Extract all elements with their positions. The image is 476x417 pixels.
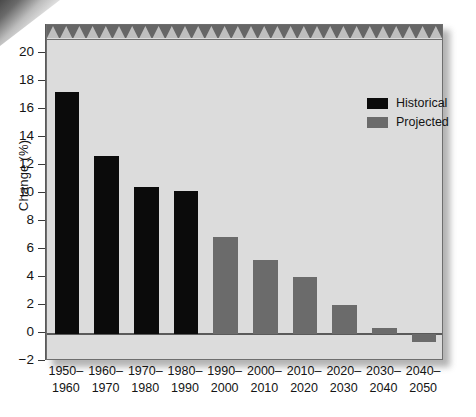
y-tick-mark [38, 360, 45, 361]
bar-1980-1990 [174, 191, 199, 334]
legend-swatch-historical-icon [367, 98, 388, 109]
y-tick-label: 4 [2, 269, 34, 282]
y-axis-title: Change (%) [16, 121, 31, 231]
chart-legend: Historical Projected [367, 94, 449, 132]
x-axis-label: 1980–1990 [165, 363, 205, 413]
y-tick-label: 16 [2, 101, 34, 114]
y-tick-mark [38, 276, 45, 277]
x-axis-label-line: 2010 [245, 380, 285, 397]
y-tick-mark [38, 136, 45, 137]
x-axis-label-line: 2020– [324, 363, 364, 380]
x-axis-label-line: 2010– [284, 363, 324, 380]
y-tick-mark [38, 248, 45, 249]
x-axis-label: 2020–2030 [324, 363, 364, 413]
y-tick-label: 0 [2, 325, 34, 338]
x-axis-label-line: 1990– [205, 363, 245, 380]
x-axis-label-line: 2030 [324, 380, 364, 397]
x-axis-label-line: 1970– [125, 363, 165, 380]
legend-item-historical: Historical [367, 94, 449, 113]
x-axis-label-line: 2040 [364, 380, 404, 397]
y-tick-mark [38, 304, 45, 305]
x-axis-label: 1950–1960 [46, 363, 86, 413]
legend-label-projected: Projected [396, 113, 449, 132]
x-axis-label: 1970–1980 [125, 363, 165, 413]
x-axis-label: 2030–2040 [364, 363, 404, 413]
bar-2030-2040 [372, 328, 397, 334]
y-tick-label: 20 [2, 45, 34, 58]
y-tick-label: 2 [2, 297, 34, 310]
bar-1960-1970 [94, 156, 119, 334]
x-axis-label-line: 1990 [165, 380, 205, 397]
x-axis-label-line: 1960 [46, 380, 86, 397]
x-axis-label: 1990–2000 [205, 363, 245, 413]
x-axis-label-line: 1960– [86, 363, 126, 380]
bar-2010-2020 [293, 277, 318, 334]
x-axis-label-line: 2020 [284, 380, 324, 397]
y-tick-label: −2 [2, 353, 34, 366]
chart-plot-area: Historical Projected [46, 24, 443, 360]
y-tick-mark [38, 192, 45, 193]
x-axis-label: 2010–2020 [284, 363, 324, 413]
y-tick-label: 18 [2, 73, 34, 86]
plot-inner: Historical Projected [47, 39, 442, 359]
legend-item-projected: Projected [367, 113, 449, 132]
x-axis-label-line: 1970 [86, 380, 126, 397]
bar-1990-2000 [213, 237, 238, 334]
y-tick-mark [38, 108, 45, 109]
y-tick-mark [38, 52, 45, 53]
bar-2040-2050 [412, 334, 437, 342]
x-axis-label-line: 2000 [205, 380, 245, 397]
bar-1970-1980 [134, 187, 159, 334]
legend-label-historical: Historical [396, 94, 447, 113]
y-tick-mark [38, 164, 45, 165]
y-tick-mark [38, 220, 45, 221]
y-tick-mark [38, 80, 45, 81]
x-axis-label: 2040–2050 [403, 363, 443, 413]
x-axis-label-line: 2000– [245, 363, 285, 380]
y-tick-label: 6 [2, 241, 34, 254]
x-axis-label: 2000–2010 [245, 363, 285, 413]
x-axis-label-line: 1950– [46, 363, 86, 380]
axis-break-sawtooth-icon [47, 25, 442, 38]
bar-2020-2030 [332, 305, 357, 334]
x-axis-label-line: 2040– [403, 363, 443, 380]
x-axis-label-line: 2030– [364, 363, 404, 380]
y-tick-mark [38, 332, 45, 333]
x-axis-label-line: 2050 [403, 380, 443, 397]
x-axis-label-line: 1980 [125, 380, 165, 397]
y-axis-line [45, 24, 46, 360]
bar-2000-2010 [253, 260, 278, 334]
legend-swatch-projected-icon [367, 117, 388, 128]
x-axis-label: 1960–1970 [86, 363, 126, 413]
x-axis-labels: 1950–19601960–19701970–19801980–19901990… [46, 363, 443, 413]
bar-1950-1960 [55, 92, 80, 334]
x-axis-label-line: 1980– [165, 363, 205, 380]
